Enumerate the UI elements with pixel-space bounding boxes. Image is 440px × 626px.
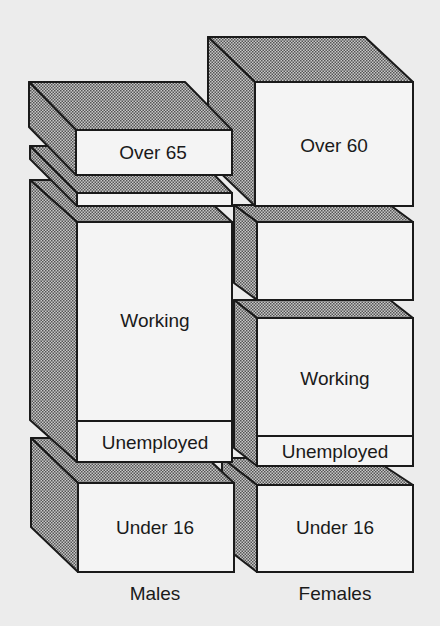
- males-over65-label: Over 65: [119, 142, 187, 163]
- females-middle-block: [234, 205, 413, 300]
- females-over60-label: Over 60: [300, 135, 368, 156]
- females-over60-block: Over 60: [208, 37, 413, 206]
- males-unemployed-label: Unemployed: [102, 432, 209, 453]
- females-column: Under 16 Working Unemployed Over 60 Fema…: [208, 37, 413, 604]
- males-under16-label: Under 16: [116, 517, 194, 538]
- population-block-diagram: Under 16 Working Unemployed Over 60 Fema…: [0, 0, 440, 626]
- males-working-label: Working: [120, 310, 189, 331]
- males-working-block: Working Unemployed: [30, 180, 232, 462]
- females-unemployed-label: Unemployed: [282, 441, 389, 462]
- females-working-block: Working Unemployed: [234, 300, 413, 466]
- males-category-label: Males: [130, 583, 181, 604]
- females-under16-block: Under 16: [222, 458, 413, 572]
- females-working-label: Working: [300, 368, 369, 389]
- females-under16-label: Under 16: [296, 517, 374, 538]
- females-category-label: Females: [299, 583, 372, 604]
- males-column: Under 16 Working Unemployed Over 65 Male…: [29, 82, 234, 604]
